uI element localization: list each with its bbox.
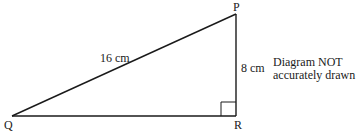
vertex-label-q: Q — [4, 119, 13, 132]
note-line-2: accurately drawn — [273, 69, 355, 82]
vertex-label-p: P — [233, 1, 240, 14]
side-label-qp: 16 cm — [100, 52, 130, 65]
side-label-pr: 8 cm — [241, 62, 265, 75]
right-angle-marker — [221, 102, 236, 116]
side-qp — [12, 14, 236, 116]
vertex-label-r: R — [234, 119, 242, 132]
